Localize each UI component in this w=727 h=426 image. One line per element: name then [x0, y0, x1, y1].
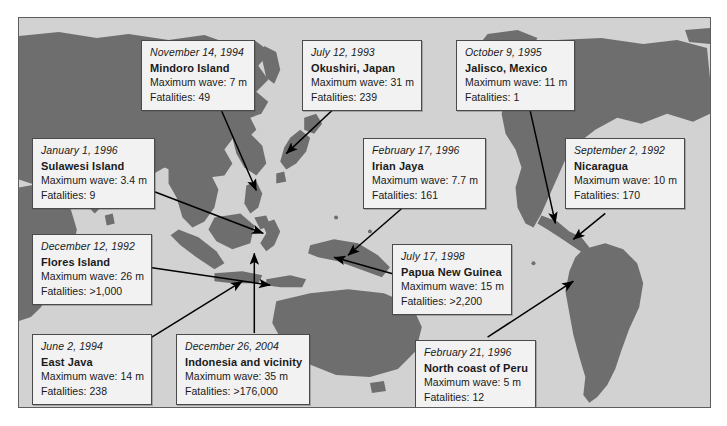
callout-fatalities: Fatalities: 161: [372, 189, 478, 203]
callout-fatalities: Fatalities: >1,000: [41, 285, 144, 299]
arrow-sulawesi-island: [149, 189, 264, 233]
callout-fatalities: Fatalities: 12: [424, 391, 528, 405]
callout-place: Indonesia and vicinity: [185, 355, 302, 369]
callout-irian-jaya[interactable]: February 17, 1996 Irian Jaya Maximum wav…: [363, 138, 486, 209]
callout-date: July 17, 1998: [401, 250, 504, 264]
callout-place: Okushiri, Japan: [311, 61, 414, 75]
callout-sulawesi-island[interactable]: January 1, 1996 Sulawesi Island Maximum …: [32, 138, 155, 209]
callout-fatalities: Fatalities: 170: [574, 189, 677, 203]
callout-place: Papua New Guinea: [401, 265, 504, 279]
callout-max-wave: Maximum wave: 3.4 m: [41, 174, 147, 188]
callout-max-wave: Maximum wave: 10 m: [574, 174, 677, 188]
callout-date: February 21, 1996: [424, 346, 528, 360]
callout-okushiri-japan[interactable]: July 12, 1993 Okushiri, Japan Maximum wa…: [302, 40, 422, 111]
callout-fatalities: Fatalities: >2,200: [401, 295, 504, 309]
callout-date: July 12, 1993: [311, 46, 414, 60]
callout-max-wave: Maximum wave: 31 m: [311, 76, 414, 90]
arrow-flores-island: [149, 267, 271, 285]
callout-max-wave: Maximum wave: 5 m: [424, 376, 528, 390]
callout-nicaragua[interactable]: September 2, 1992 Nicaragua Maximum wave…: [565, 138, 685, 209]
callout-fatalities: Fatalities: 1: [465, 91, 567, 105]
world-map-figure: November 14, 1994 Mindoro Island Maximum…: [18, 17, 711, 408]
callout-papua-new-guinea[interactable]: July 17, 1998 Papua New Guinea Maximum w…: [392, 244, 512, 315]
callout-place: Irian Jaya: [372, 159, 478, 173]
callout-date: June 2, 1994: [41, 340, 144, 354]
callout-max-wave: Maximum wave: 14 m: [41, 370, 144, 384]
figure-page: November 14, 1994 Mindoro Island Maximum…: [0, 0, 727, 426]
callout-indonesia-and-vicinity[interactable]: December 26, 2004 Indonesia and vicinity…: [176, 334, 310, 405]
arrow-nicaragua: [573, 213, 605, 239]
callout-max-wave: Maximum wave: 15 m: [401, 280, 504, 294]
arrow-papua-new-guinea: [334, 257, 398, 275]
callout-max-wave: Maximum wave: 7.7 m: [372, 174, 478, 188]
callout-flores-island[interactable]: December 12, 1992 Flores Island Maximum …: [32, 234, 152, 305]
callout-date: December 26, 2004: [185, 340, 302, 354]
callout-date: October 9, 1995: [465, 46, 567, 60]
callout-mindoro-island[interactable]: November 14, 1994 Mindoro Island Maximum…: [141, 40, 255, 111]
callout-max-wave: Maximum wave: 11 m: [465, 76, 567, 90]
callout-max-wave: Maximum wave: 26 m: [41, 270, 144, 284]
callout-date: January 1, 1996: [41, 144, 147, 158]
callout-place: East Java: [41, 355, 144, 369]
callout-max-wave: Maximum wave: 7 m: [150, 76, 247, 90]
callout-date: December 12, 1992: [41, 240, 144, 254]
callout-fatalities: Fatalities: 238: [41, 385, 144, 399]
callout-east-java[interactable]: June 2, 1994 East Java Maximum wave: 14 …: [32, 334, 152, 405]
callout-jalisco-mexico[interactable]: October 9, 1995 Jalisco, Mexico Maximum …: [456, 40, 575, 111]
callout-date: September 2, 1992: [574, 144, 677, 158]
callout-place: Mindoro Island: [150, 61, 247, 75]
callout-north-coast-of-peru[interactable]: February 21, 1996 North coast of Peru Ma…: [415, 340, 536, 408]
callout-place: Flores Island: [41, 255, 144, 269]
callout-fatalities: Fatalities: 9: [41, 189, 147, 203]
callout-max-wave: Maximum wave: 35 m: [185, 370, 302, 384]
callout-date: February 17, 1996: [372, 144, 478, 158]
callout-place: Sulawesi Island: [41, 159, 147, 173]
callout-date: November 14, 1994: [150, 46, 247, 60]
callout-fatalities: Fatalities: 49: [150, 91, 247, 105]
callout-fatalities: Fatalities: 239: [311, 91, 414, 105]
arrow-east-java: [149, 281, 243, 339]
callout-place: Jalisco, Mexico: [465, 61, 567, 75]
callout-place: North coast of Peru: [424, 361, 528, 375]
callout-fatalities: Fatalities: >176,000: [185, 385, 302, 399]
callout-place: Nicaragua: [574, 159, 677, 173]
